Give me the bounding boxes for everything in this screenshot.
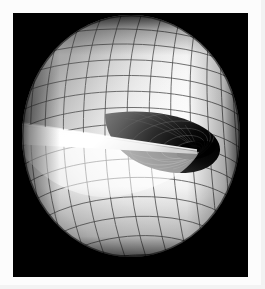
page-edge-bottom (0, 285, 265, 289)
figure-page (0, 0, 265, 289)
top-rim-fade (13, 13, 248, 277)
sphere-surface (13, 13, 248, 277)
plot-canvas (13, 13, 248, 277)
surface-plot-svg (13, 13, 248, 277)
page-edge-right (261, 0, 265, 289)
